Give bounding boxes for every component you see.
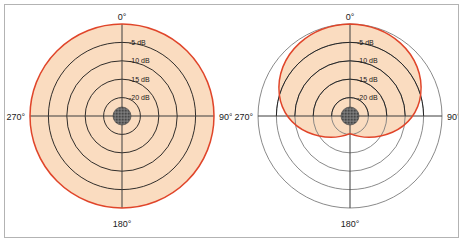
omnidirectional-polar-plot: -5 dB -10 dB -15 dB -20 dB 0° 180° 270° … <box>5 5 232 237</box>
ring-label-minus-20: -20 dB <box>357 94 378 101</box>
ring-label-minus-15: -15 dB <box>129 76 150 83</box>
angle-label-270: 270° <box>234 112 253 122</box>
angle-label-180: 180° <box>113 219 132 229</box>
ring-label-minus-5: -5 dB <box>129 39 146 46</box>
ring-label-minus-10: -10 dB <box>357 57 378 64</box>
angle-label-180: 180° <box>341 219 360 229</box>
ring-label-minus-15: -15 dB <box>357 76 378 83</box>
angle-label-270: 270° <box>6 112 25 122</box>
ring-label-minus-20: -20 dB <box>129 94 150 101</box>
angle-label-0: 0° <box>346 12 355 22</box>
angle-label-90: 90° <box>447 112 458 122</box>
microphone-capsule-icon <box>341 107 359 125</box>
cardioid-polar-plot: -5 dB -10 dB -15 dB -20 dB 0° 180° 270° … <box>231 5 458 237</box>
microphone-capsule-icon <box>113 107 131 125</box>
figure-frame: -5 dB -10 dB -15 dB -20 dB 0° 180° 270° … <box>4 4 459 238</box>
ring-label-minus-5: -5 dB <box>357 39 374 46</box>
angle-label-0: 0° <box>118 12 127 22</box>
ring-label-minus-10: -10 dB <box>129 57 150 64</box>
